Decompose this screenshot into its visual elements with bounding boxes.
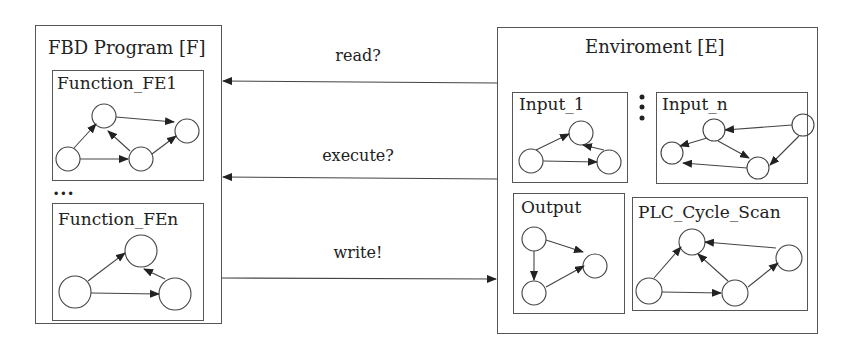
plc-cycle-scan-graph bbox=[636, 229, 802, 306]
arrow-execute bbox=[223, 177, 497, 179]
function-fe1-graph bbox=[56, 104, 199, 171]
vertical-ellipsis-icon bbox=[640, 95, 645, 121]
input-1-graph bbox=[519, 121, 621, 174]
arrow-write bbox=[222, 278, 496, 279]
arrow-read bbox=[223, 81, 497, 83]
output-graph bbox=[522, 227, 607, 305]
function-fen-graph bbox=[59, 235, 191, 310]
diagram-graphics bbox=[0, 0, 847, 353]
input-n-graph bbox=[661, 114, 814, 179]
